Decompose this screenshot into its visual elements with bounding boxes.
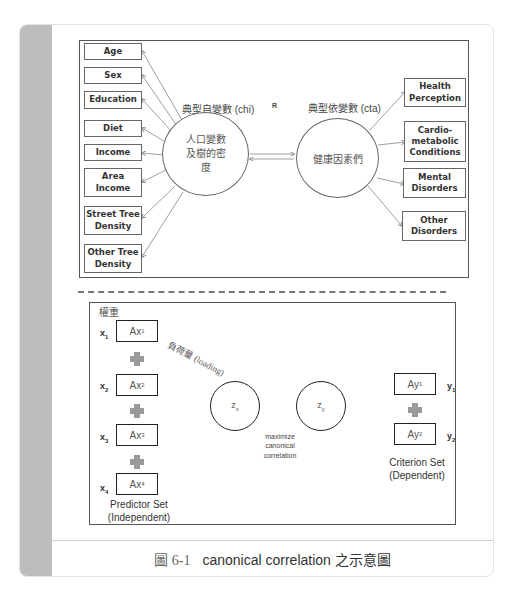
- var-label: Cardio-metabolic Conditions: [409, 125, 460, 158]
- var-box-income: Income: [84, 144, 142, 161]
- x1-label: x1: [100, 328, 108, 340]
- predictor-set-title: Predictor Set: [104, 499, 174, 512]
- right-variate-circle: 健康因素們: [296, 118, 379, 198]
- box-sub: 4: [141, 481, 144, 487]
- box-sub: 2: [419, 431, 422, 437]
- var-box-age: Age: [84, 43, 142, 60]
- var-box-area-income: Area Income: [84, 168, 142, 197]
- r-label: R: [272, 102, 277, 109]
- x4-label: x4: [100, 483, 108, 495]
- z-sub: x: [236, 406, 239, 412]
- var-label: Sex: [104, 70, 121, 81]
- y1-label: y1: [447, 381, 455, 393]
- box-sub: 3: [141, 432, 144, 438]
- var-sub: 3: [105, 438, 108, 444]
- section-divider: [78, 291, 446, 293]
- ay2-box: Ay2: [394, 423, 436, 445]
- criterion-set-title: Criterion Set: [384, 457, 450, 470]
- box-sub: 2: [141, 382, 144, 388]
- plus-icon: [408, 403, 422, 417]
- x3-label: x3: [100, 432, 108, 444]
- var-sub: 1: [452, 387, 455, 393]
- center-label-line: canonical: [252, 441, 308, 450]
- var-box-other-disorders: Other Disorders: [402, 211, 466, 241]
- box-name: Ay: [408, 379, 420, 390]
- right-variate-text: 健康因素們: [313, 151, 363, 166]
- box-sub: 1: [141, 328, 144, 334]
- var-box-sex: Sex: [84, 67, 142, 84]
- var-box-cardio-metabolic: Cardio-metabolic Conditions: [404, 121, 466, 162]
- center-label-line: maximize: [252, 432, 308, 441]
- var-box-other-tree-density: Other Tree Density: [84, 244, 142, 273]
- var-box-mental-disorders: Mental Disorders: [403, 168, 466, 198]
- y2-label: y2: [447, 431, 455, 443]
- left-variate-circle: 人口變數及樹的密度: [162, 112, 249, 196]
- ax4-box: Ax4: [116, 473, 158, 495]
- maximize-label: maximize canonical correlation: [252, 432, 308, 460]
- criterion-set-label: Criterion Set (Dependent): [384, 457, 450, 482]
- zy-circle: zy: [296, 381, 346, 431]
- z-sub: y: [322, 406, 325, 412]
- var-box-health-perception: Health Perception: [404, 78, 466, 107]
- var-label: Education: [89, 94, 137, 105]
- predictor-set-subtitle: (Independent): [104, 512, 174, 525]
- criterion-set-subtitle: (Dependent): [384, 470, 450, 483]
- right-variate-title: 典型依變數 (cta): [308, 100, 381, 115]
- box-sub: 1: [419, 381, 422, 387]
- var-label: Area Income: [93, 171, 133, 193]
- var-label: Street Tree Density: [85, 209, 141, 231]
- plus-icon: [130, 352, 144, 366]
- box-name: Ay: [408, 429, 420, 440]
- plus-icon: [130, 455, 144, 469]
- ax2-box: Ax2: [116, 374, 158, 396]
- var-label: Income: [96, 147, 131, 158]
- box-name: Ax: [129, 380, 141, 391]
- center-label-line: correlation: [252, 451, 308, 460]
- ay1-box: Ay1: [394, 373, 436, 395]
- x2-label: x2: [100, 381, 108, 393]
- ax3-box: Ax3: [116, 424, 158, 446]
- var-label: Other Tree Density: [85, 247, 141, 269]
- zy-label: zy: [317, 400, 325, 412]
- plus-icon: [130, 404, 144, 418]
- var-label: Diet: [103, 123, 123, 134]
- predictor-set-label: Predictor Set (Independent): [104, 499, 174, 524]
- zx-circle: zx: [210, 381, 260, 431]
- zx-label: zx: [231, 400, 239, 412]
- box-name: Ax: [129, 430, 141, 441]
- var-box-education: Education: [84, 91, 142, 109]
- box-name: Ax: [129, 326, 141, 337]
- weight-label: 權重: [99, 304, 119, 319]
- var-box-diet: Diet: [84, 120, 142, 137]
- var-label: Mental Disorders: [411, 172, 457, 194]
- var-label: Age: [104, 46, 122, 57]
- var-sub: 2: [105, 387, 108, 393]
- var-box-street-tree-density: Street Tree Density: [84, 206, 142, 235]
- ax1-box: Ax1: [116, 320, 158, 342]
- var-label: Other Disorders: [411, 215, 457, 237]
- var-label: Health Perception: [409, 81, 461, 103]
- left-variate-text: 人口變數及樹的密度: [183, 133, 229, 175]
- var-sub: 4: [105, 489, 108, 495]
- box-name: Ax: [129, 479, 141, 490]
- var-sub: 1: [105, 334, 108, 340]
- var-sub: 2: [452, 437, 455, 443]
